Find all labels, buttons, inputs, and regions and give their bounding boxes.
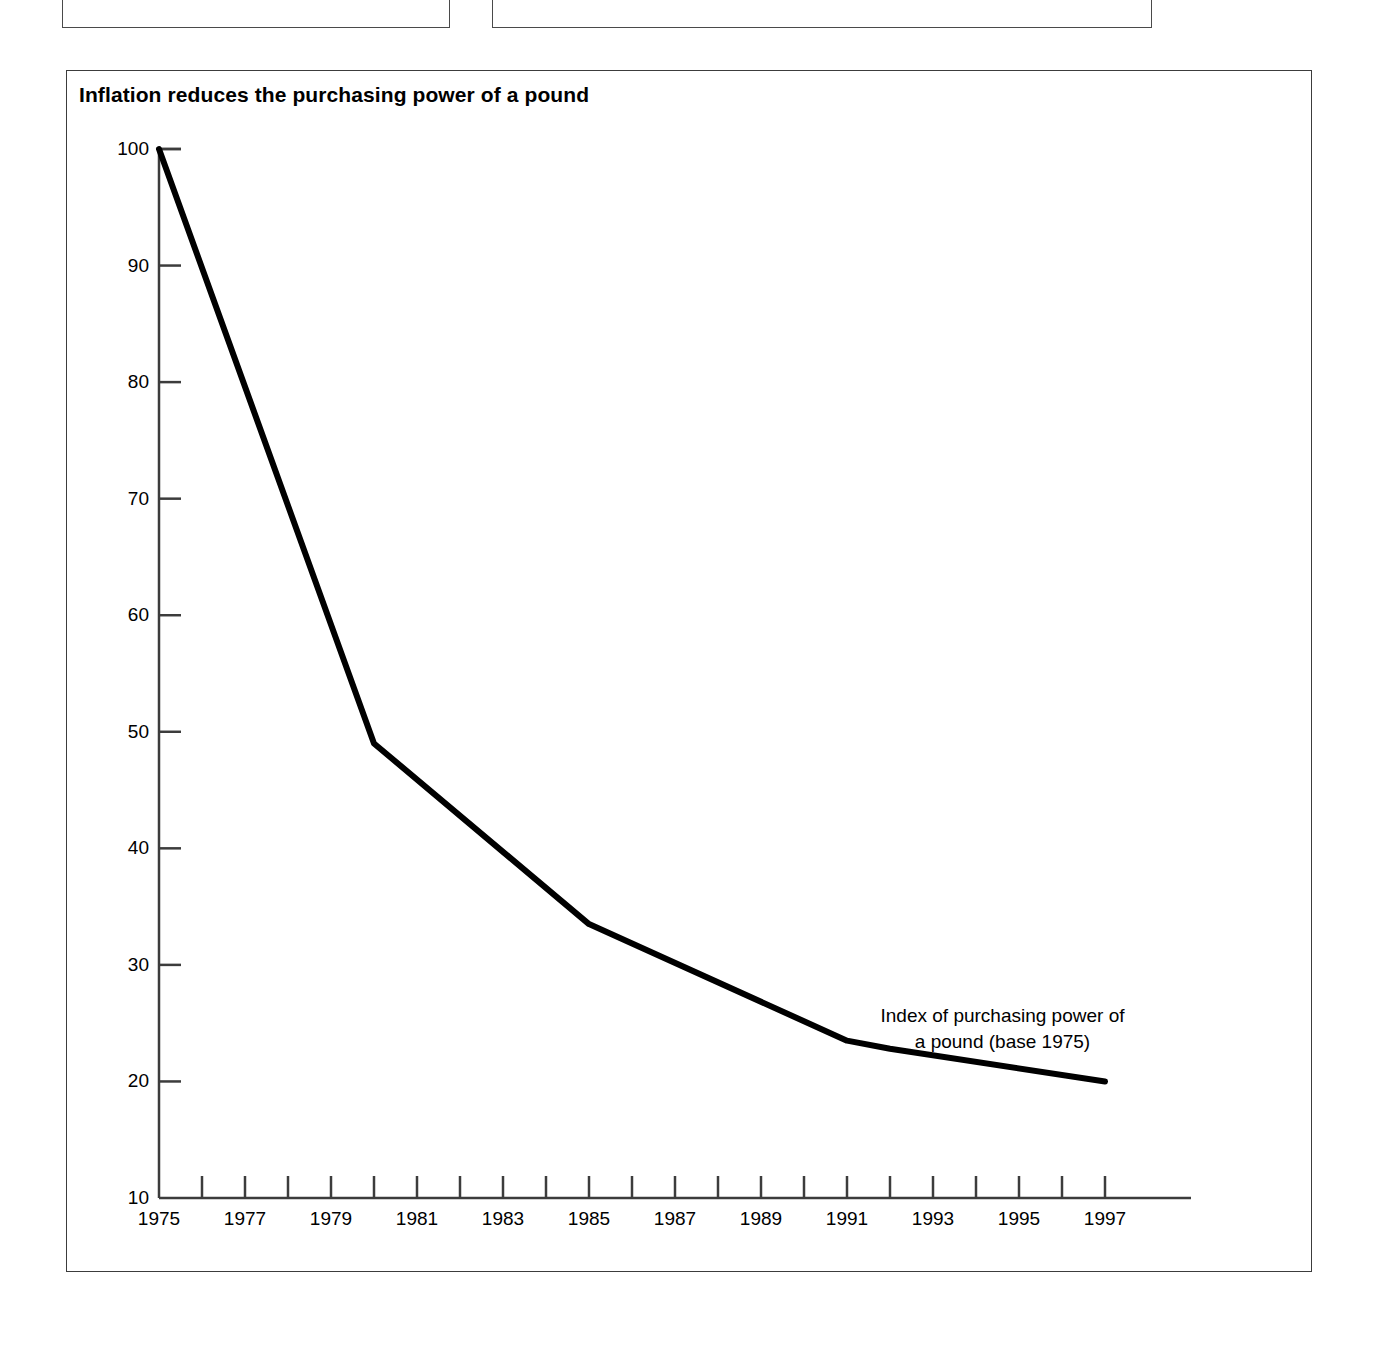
y-axis-tick-label: 90 xyxy=(89,255,149,277)
y-axis-tick-label: 80 xyxy=(89,371,149,393)
x-axis-tick-label: 1977 xyxy=(205,1208,285,1230)
series-layer xyxy=(159,149,1105,1081)
x-axis-tick-label: 1989 xyxy=(721,1208,801,1230)
x-axis-tick-label: 1979 xyxy=(291,1208,371,1230)
y-axis-tick-label: 40 xyxy=(89,837,149,859)
y-axis-tick-label: 100 xyxy=(89,138,149,160)
plot-area: 102030405060708090100 197519771979198119… xyxy=(67,71,1313,1273)
top-cut-fragments xyxy=(0,0,1379,30)
x-axis-tick-label: 1993 xyxy=(893,1208,973,1230)
right-cut-box xyxy=(492,0,1152,28)
x-axis-tick-label: 1983 xyxy=(463,1208,543,1230)
x-axis-tick-label: 1995 xyxy=(979,1208,1059,1230)
chart-panel: Inflation reduces the purchasing power o… xyxy=(66,70,1312,1272)
y-axis-tick-label: 50 xyxy=(89,721,149,743)
x-axis-tick-label: 1975 xyxy=(119,1208,199,1230)
y-axis-tick-label: 30 xyxy=(89,954,149,976)
x-axis-tick-label: 1997 xyxy=(1065,1208,1145,1230)
y-axis-tick-label: 20 xyxy=(89,1070,149,1092)
x-axis-tick-label: 1985 xyxy=(549,1208,629,1230)
series-label-line-1: Index of purchasing power of xyxy=(881,1003,1125,1029)
y-axis-tick-label: 70 xyxy=(89,488,149,510)
chart-svg xyxy=(67,71,1313,1273)
left-cut-box xyxy=(62,0,450,28)
x-axis-tick-label: 1987 xyxy=(635,1208,715,1230)
y-axis-tick-label: 10 xyxy=(89,1187,149,1209)
x-axis-tick-label: 1991 xyxy=(807,1208,887,1230)
data-series-line xyxy=(159,149,1105,1081)
series-label: Index of purchasing power ofa pound (bas… xyxy=(881,1003,1125,1055)
series-label-line-2: a pound (base 1975) xyxy=(881,1029,1125,1055)
y-axis-tick-label: 60 xyxy=(89,604,149,626)
x-axis-tick-label: 1981 xyxy=(377,1208,457,1230)
